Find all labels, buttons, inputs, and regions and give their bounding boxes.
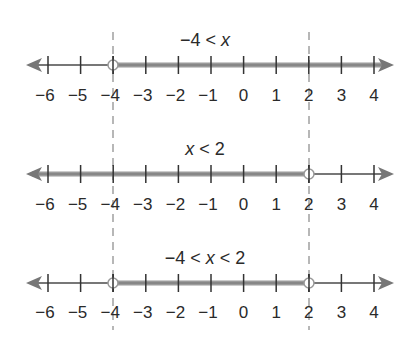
tick-label: −1: [198, 195, 217, 214]
tick-label: −1: [198, 303, 217, 322]
number-line-diagram: −4 < x x < 2 −4 < x < 2 −6−5−4−3−2−10123…: [0, 0, 419, 342]
tick-label: 3: [337, 86, 346, 105]
tick-label: −5: [68, 303, 87, 322]
inequality-title-1: −4 < x: [180, 30, 231, 50]
tick-label: 0: [239, 303, 248, 322]
tick-label: −5: [68, 86, 87, 105]
tick-label: 4: [369, 86, 378, 105]
number-line-2: x < 2: [26, 139, 394, 183]
tick-label: −4: [101, 86, 120, 105]
tick-label: 1: [271, 303, 280, 322]
number-line-1: −4 < x: [26, 30, 394, 74]
tick-label: −4: [101, 303, 120, 322]
tick-label: −4: [101, 195, 120, 214]
tick-label: −6: [35, 303, 54, 322]
tick-label: −1: [198, 86, 217, 105]
tick-label: 4: [369, 303, 378, 322]
tick-label: 2: [304, 303, 313, 322]
tick-label: 0: [239, 86, 248, 105]
tick-label: −3: [133, 195, 152, 214]
tick-label: 0: [239, 195, 248, 214]
tick-label: 1: [271, 86, 280, 105]
inequality-title-3: −4 < x < 2: [165, 248, 246, 268]
tick-label: 1: [271, 195, 280, 214]
tick-label: 3: [337, 195, 346, 214]
number-line-3: −4 < x < 2: [26, 248, 394, 292]
tick-label: −6: [35, 195, 54, 214]
tick-label: −2: [166, 303, 185, 322]
tick-label: −3: [133, 86, 152, 105]
tick-label: −3: [133, 303, 152, 322]
tick-label: −5: [68, 195, 87, 214]
tick-label: 3: [337, 303, 346, 322]
tick-label: −2: [166, 86, 185, 105]
tick-label: 2: [304, 86, 313, 105]
tick-label: −6: [35, 86, 54, 105]
tick-labels: −6−5−4−3−2−101234−6−5−4−3−2−101234−6−5−4…: [35, 86, 378, 322]
tick-label: 4: [369, 195, 378, 214]
inequality-title-2: x < 2: [184, 139, 225, 159]
tick-label: −2: [166, 195, 185, 214]
tick-label: 2: [304, 195, 313, 214]
